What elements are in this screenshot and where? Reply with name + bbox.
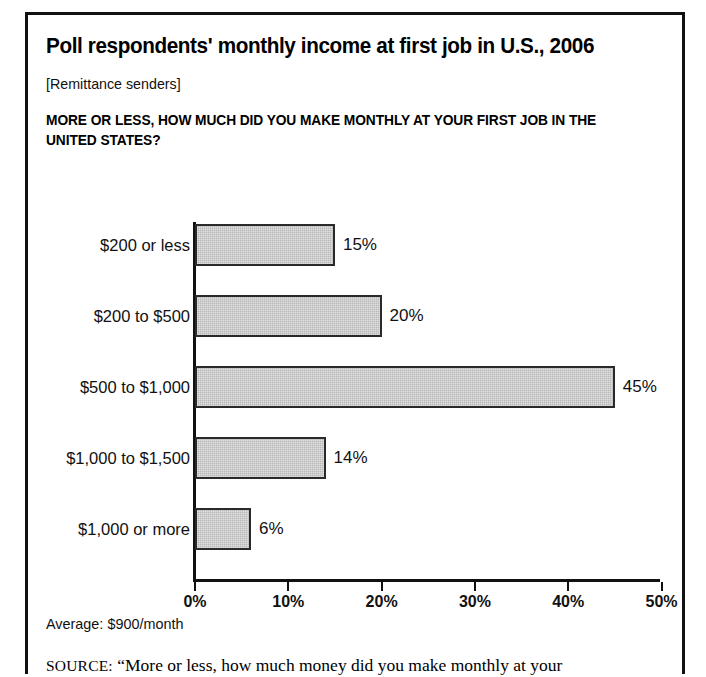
bar	[195, 508, 251, 550]
bar	[195, 295, 382, 337]
x-tick-label: 10%	[272, 593, 304, 611]
source-text: “More or less, how much money did you ma…	[117, 655, 562, 675]
category-label: $200 or less	[100, 236, 190, 255]
bar-row: $200 to $50020%	[28, 295, 688, 337]
bar-row: $1,000 or more6%	[28, 508, 688, 550]
bar-value-label: 6%	[259, 519, 284, 539]
average-note: Average: $900/month	[46, 615, 183, 632]
x-tick	[194, 582, 196, 591]
bar-value-label: 15%	[343, 235, 377, 255]
chart-title: Poll respondents' monthly income at firs…	[46, 33, 594, 59]
bar	[195, 437, 326, 479]
x-tick	[474, 582, 476, 591]
bar-value-label: 20%	[390, 306, 424, 326]
source-note: SOURCE: “More or less, how much money di…	[46, 655, 671, 677]
category-label: $1,000 to $1,500	[66, 449, 190, 468]
x-tick-label: 0%	[183, 593, 206, 611]
bar	[195, 224, 335, 266]
x-tick	[381, 582, 383, 591]
chart-subtitle: [Remittance senders]	[46, 75, 181, 92]
category-label: $1,000 or more	[78, 520, 190, 539]
source-label: SOURCE:	[46, 657, 113, 674]
category-label: $200 to $500	[94, 307, 190, 326]
bar-chart-plot: 0%10%20%30%40%50% $200 or less15%$200 to…	[28, 210, 688, 595]
x-tick-label: 20%	[366, 593, 398, 611]
chart-figure: Poll respondents' monthly income at firs…	[25, 12, 685, 674]
bar-row: $500 to $1,00045%	[28, 366, 688, 408]
bar-value-label: 14%	[334, 448, 368, 468]
category-label: $500 to $1,000	[80, 378, 190, 397]
x-axis-line	[193, 579, 660, 582]
x-tick-label: 50%	[645, 593, 677, 611]
poll-question: MORE OR LESS, HOW MUCH DID YOU MAKE MONT…	[46, 111, 616, 150]
x-tick	[661, 582, 663, 591]
x-tick-label: 40%	[552, 593, 584, 611]
x-tick-label: 30%	[459, 593, 491, 611]
bar-value-label: 45%	[623, 377, 657, 397]
bar-row: $200 or less15%	[28, 224, 688, 266]
x-tick	[287, 582, 289, 591]
bar-row: $1,000 to $1,50014%	[28, 437, 688, 479]
x-tick	[567, 582, 569, 591]
bar	[195, 366, 615, 408]
